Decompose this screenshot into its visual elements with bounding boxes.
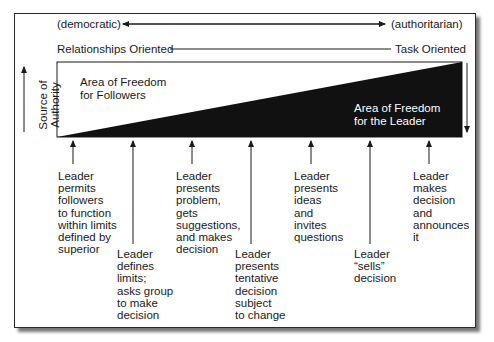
task-oriented-label: Task Oriented [395, 43, 466, 55]
leader-area-label: Area of Freedom for the Leader [354, 102, 440, 128]
followers-area-label: Area of Freedom for Followers [80, 76, 166, 102]
behavior-3-label: Leader presents problem, gets suggestion… [176, 170, 241, 255]
behavior-7-label: Leader makes decision and announces it [413, 170, 469, 243]
behavior-4-label: Leader presents tentative decision subje… [235, 248, 286, 321]
authoritarian-label: (authoritarian) [391, 18, 463, 30]
relationships-oriented-label: Relationships Oriented [57, 43, 173, 55]
behavior-5-label: Leader presents ideas and invites questi… [294, 170, 343, 243]
behavior-1-label: Leader permits followers to function wit… [58, 170, 117, 255]
behavior-6-label: Leader “sells” decision [354, 248, 396, 285]
behavior-2-label: Leader defines limits; asks group to mak… [117, 248, 173, 321]
source-of-authority-label: Source of Authority [37, 70, 61, 140]
democratic-label: (democratic) [57, 18, 121, 30]
